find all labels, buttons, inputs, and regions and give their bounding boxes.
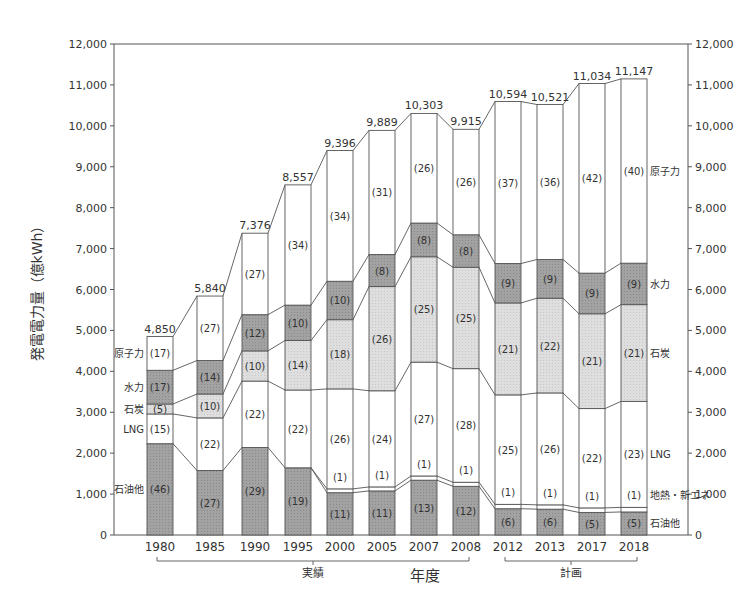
segment-percent-label: (26) xyxy=(372,334,393,345)
y-tick-label-right: 11,000 xyxy=(695,79,734,92)
x-tick-label: 2005 xyxy=(367,540,398,554)
y-tick-label-left: 11,000 xyxy=(69,79,108,92)
segment-percent-label: (26) xyxy=(540,444,561,455)
total-label: 11,147 xyxy=(615,65,654,78)
bar-2007 xyxy=(411,113,437,535)
segment-percent-label: (1) xyxy=(375,470,389,481)
x-tick-label: 1995 xyxy=(283,540,314,554)
bar-segment xyxy=(411,476,437,480)
segment-percent-label: (22) xyxy=(200,439,221,450)
y-tick-label-right: 7,000 xyxy=(695,243,727,256)
y-tick-label-left: 3,000 xyxy=(76,406,108,419)
segment-percent-label: (21) xyxy=(498,344,519,355)
stacked-bar-chart: 001,0001,0002,0002,0003,0003,0004,0004,0… xyxy=(0,0,753,612)
total-label: 5,840 xyxy=(194,282,226,295)
bar-2017 xyxy=(579,84,605,535)
y-tick-label-left: 5,000 xyxy=(76,324,108,337)
left-series-label: 石炭 xyxy=(124,404,144,415)
x-tick-label: 1985 xyxy=(195,540,226,554)
segment-percent-label: (5) xyxy=(627,518,641,529)
left-series-label: 石油他 xyxy=(114,483,144,495)
total-label: 10,303 xyxy=(405,99,444,112)
bar-segment xyxy=(621,507,647,512)
segment-percent-label: (12) xyxy=(456,506,477,517)
right-series-label: 石油他 xyxy=(650,517,680,529)
segment-percent-label: (8) xyxy=(417,235,431,246)
segment-percent-label: (11) xyxy=(330,509,351,520)
segment-percent-label: (15) xyxy=(150,424,171,435)
segment-percent-label: (40) xyxy=(624,166,645,177)
segment-percent-label: (1) xyxy=(459,465,473,476)
segment-percent-label: (22) xyxy=(540,341,561,352)
x-tick-label: 2007 xyxy=(409,540,440,554)
y-tick-label-left: 6,000 xyxy=(76,284,108,297)
y-tick-label-left: 12,000 xyxy=(69,38,108,51)
segment-percent-label: (12) xyxy=(245,328,266,339)
segment-percent-label: (22) xyxy=(288,424,309,435)
right-series-label: 水力 xyxy=(650,278,670,290)
bar-1980 xyxy=(147,337,173,535)
y-tick-label-left: 1,000 xyxy=(76,488,108,501)
right-series-label: 原子力 xyxy=(650,165,680,177)
x-tick-label: 1980 xyxy=(145,540,176,554)
segment-percent-label: (46) xyxy=(150,484,171,495)
total-label: 7,376 xyxy=(239,219,271,232)
total-label: 8,557 xyxy=(282,171,314,184)
segment-percent-label: (21) xyxy=(624,348,645,359)
segment-percent-label: (26) xyxy=(330,434,351,445)
segment-percent-label: (14) xyxy=(200,372,221,383)
group-label: 計画 xyxy=(560,566,582,580)
y-tick-label-left: 4,000 xyxy=(76,365,108,378)
x-axis-title: 年度 xyxy=(410,567,440,585)
bar-segment xyxy=(453,482,479,486)
segment-percent-label: (6) xyxy=(543,517,557,528)
x-tick-label: 2013 xyxy=(535,540,566,554)
y-tick-label-right: 12,000 xyxy=(695,38,734,51)
segment-percent-label: (1) xyxy=(585,491,599,502)
segment-percent-label: (37) xyxy=(498,178,519,189)
segment-percent-label: (14) xyxy=(288,360,309,371)
y-axis-title: 発電電力量（億kWh） xyxy=(29,219,45,362)
segment-percent-label: (9) xyxy=(543,274,557,285)
segment-percent-label: (1) xyxy=(543,488,557,499)
segment-percent-label: (25) xyxy=(414,304,435,315)
segment-percent-label: (8) xyxy=(375,266,389,277)
total-label: 10,594 xyxy=(489,88,528,101)
bar-segment xyxy=(495,504,521,508)
segment-percent-label: (27) xyxy=(200,498,221,509)
y-tick-label-left: 8,000 xyxy=(76,202,108,215)
segment-percent-label: (42) xyxy=(582,173,603,184)
total-label: 10,521 xyxy=(531,91,570,104)
segment-percent-label: (10) xyxy=(200,401,221,412)
segment-percent-label: (5) xyxy=(153,404,167,415)
segment-percent-label: (34) xyxy=(330,211,351,222)
segment-percent-label: (1) xyxy=(501,487,515,498)
segment-percent-label: (25) xyxy=(456,313,477,324)
segment-percent-label: (13) xyxy=(414,503,435,514)
segment-percent-label: (34) xyxy=(288,240,309,251)
segment-percent-label: (22) xyxy=(582,453,603,464)
bar-segment xyxy=(327,489,353,493)
segment-percent-label: (19) xyxy=(288,496,309,507)
y-tick-label-right: 10,000 xyxy=(695,120,734,133)
left-series-label: 原子力 xyxy=(114,347,144,359)
x-tick-label: 1990 xyxy=(240,540,271,554)
right-series-label: LNG xyxy=(650,449,671,460)
segment-percent-label: (18) xyxy=(330,349,351,360)
segment-percent-label: (9) xyxy=(627,279,641,290)
segment-percent-label: (26) xyxy=(456,177,477,188)
segment-percent-label: (24) xyxy=(372,434,393,445)
segment-percent-label: (25) xyxy=(498,445,519,456)
segment-percent-label: (5) xyxy=(585,519,599,530)
y-tick-label-right: 6,000 xyxy=(695,284,727,297)
bar-segment xyxy=(579,508,605,513)
total-label: 9,396 xyxy=(324,137,356,150)
x-tick-label: 2008 xyxy=(451,540,482,554)
bar-2012 xyxy=(495,102,521,535)
y-tick-label-right: 9,000 xyxy=(695,161,727,174)
segment-percent-label: (21) xyxy=(582,356,603,367)
left-series-label: 水力 xyxy=(124,381,144,393)
right-series-label: 地熱・新エネ xyxy=(650,489,710,501)
segment-percent-label: (27) xyxy=(414,414,435,425)
segment-percent-label: (1) xyxy=(627,490,641,501)
